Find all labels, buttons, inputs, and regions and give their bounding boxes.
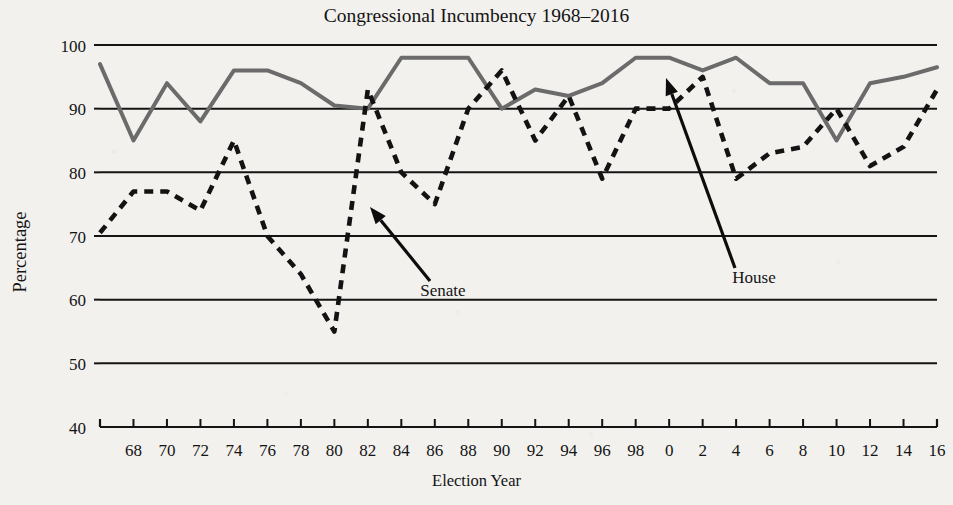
y-tick-label: 100 [61, 37, 87, 56]
x-tick-label: 96 [594, 441, 611, 460]
annotation-arrow-shaft [672, 94, 735, 268]
y-axis-label: Percentage [10, 211, 30, 292]
x-tick-label: 94 [560, 441, 578, 460]
x-tick-label: 68 [125, 441, 142, 460]
x-tick-label: 8 [799, 441, 808, 460]
y-tick-label: 50 [69, 355, 86, 374]
x-tick-label: 72 [192, 441, 209, 460]
annotation-arrow-head [666, 78, 678, 96]
congressional-incumbency-line-chart: Congressional Incumbency 1968–2016 Perce… [0, 0, 953, 505]
x-tick-label: 70 [158, 441, 175, 460]
x-tick-label: 92 [527, 441, 544, 460]
x-tick-label: 0 [665, 441, 674, 460]
y-tick-label: 90 [69, 100, 86, 119]
x-tick-label: 80 [326, 441, 343, 460]
annotation-arrow-shaft [381, 220, 430, 281]
y-tick-label: 40 [69, 419, 86, 438]
y-tick-label: 60 [69, 291, 86, 310]
y-tick-label: 70 [69, 228, 86, 247]
x-axis-label: Election Year [432, 471, 521, 490]
y-axis-tick-labels: 405060708090100 [61, 37, 101, 438]
x-axis-tick-labels: 6870727476788082848688909294969802468101… [125, 441, 946, 460]
annotation-label-senate: Senate [420, 281, 465, 300]
x-tick-label: 82 [359, 441, 376, 460]
x-axis: 6870727476788082848688909294969802468101… [100, 419, 946, 490]
x-tick-label: 74 [225, 441, 243, 460]
data-series-layer [100, 58, 937, 332]
y-tick-label: 80 [69, 164, 86, 183]
x-tick-label: 2 [698, 441, 707, 460]
x-tick-label: 12 [862, 441, 879, 460]
x-tick-label: 78 [292, 441, 309, 460]
x-axis-ticks [133, 419, 937, 427]
x-tick-label: 86 [426, 441, 443, 460]
chart-container: Congressional Incumbency 1968–2016 Perce… [0, 0, 953, 505]
x-tick-label: 14 [895, 441, 913, 460]
annotation-label-house: House [732, 268, 775, 287]
x-tick-label: 90 [493, 441, 510, 460]
x-tick-label: 4 [732, 441, 741, 460]
x-tick-label: 84 [393, 441, 411, 460]
x-tick-label: 76 [259, 441, 276, 460]
x-tick-label: 88 [460, 441, 477, 460]
x-tick-label: 98 [627, 441, 644, 460]
x-tick-label: 16 [929, 441, 946, 460]
chart-title: Congressional Incumbency 1968–2016 [324, 5, 630, 26]
gridlines [100, 45, 937, 363]
annotation-layer: SenateHouse [370, 78, 776, 300]
x-tick-label: 10 [828, 441, 845, 460]
x-tick-label: 6 [765, 441, 774, 460]
series-line-house [100, 58, 937, 141]
